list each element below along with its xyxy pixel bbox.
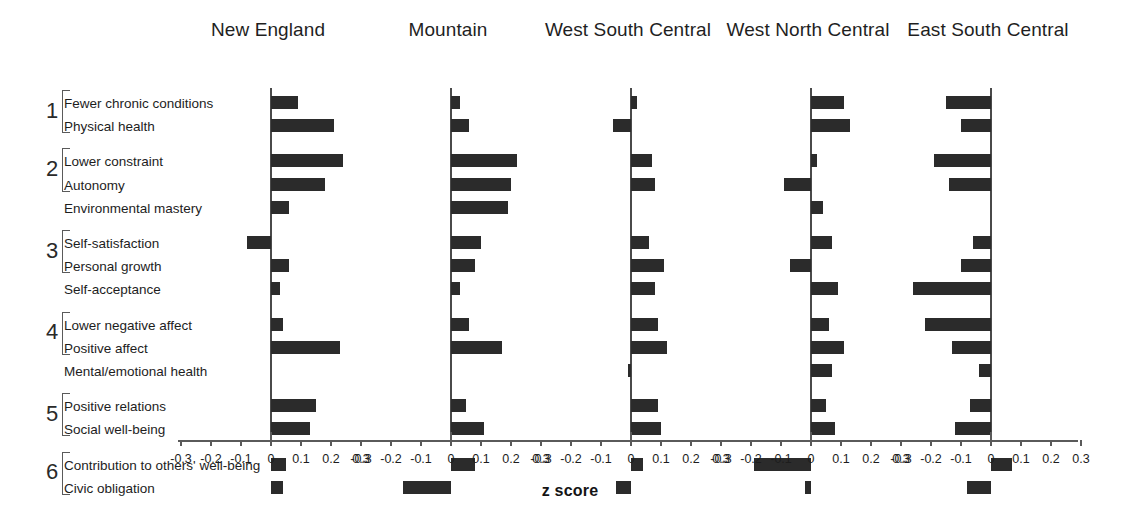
x-tick [870,440,871,446]
x-tick-label: -0.3 [350,452,372,466]
x-tick-label: 0 [268,452,275,466]
x-tick-label: -0.2 [380,452,402,466]
bar [631,399,658,412]
x-tick-label: 0.2 [862,452,879,466]
x-tick-label: -0.2 [740,452,762,466]
x-tick [720,440,721,446]
panel-west-north-central: West North Central-0.3-0.2-0.100.10.20.3 [718,0,898,529]
x-tick [330,440,331,446]
bar [271,422,310,435]
row-label: Positive affect [64,342,148,356]
bar [451,154,517,167]
bar [271,178,325,191]
row-label: Positive relations [64,400,166,414]
panel-new-england: New England-0.3-0.2-0.100.10.20.3 [178,0,358,529]
x-tick [480,440,481,446]
x-tick-label: -0.3 [710,452,732,466]
x-tick [990,432,991,446]
row-label: Social well-being [64,423,165,437]
row-label: Physical health [64,120,155,134]
group-number: 3 [46,240,58,262]
bar [271,341,340,354]
panel-title: West North Central [718,18,898,41]
x-tick [780,440,781,446]
x-tick-label: -0.2 [200,452,222,466]
bar [631,236,649,249]
x-tick-label: -0.3 [530,452,552,466]
panel-title: New England [178,18,358,41]
bar [631,341,667,354]
x-tick [240,440,241,446]
x-tick [1080,440,1081,446]
x-tick-label: -0.1 [590,452,612,466]
bar [973,236,991,249]
bar [451,259,475,272]
bar [631,318,658,331]
x-tick [540,440,541,446]
bar [271,119,334,132]
x-tick [690,440,691,446]
x-tick [420,440,421,446]
bar [631,96,637,109]
bar [955,422,991,435]
x-tick [660,440,661,446]
bar [946,96,991,109]
bar [811,96,844,109]
group-number: 6 [46,461,58,483]
bar [451,318,469,331]
panel-west-south-central: West South Central-0.3-0.2-0.100.10.20.3 [538,0,718,529]
x-tick-label: -0.2 [560,452,582,466]
bar [451,282,460,295]
row-label: Lower constraint [64,155,163,169]
bar [970,399,991,412]
x-tick [900,440,901,446]
x-tick-label: -0.1 [230,452,252,466]
bar [811,154,817,167]
x-tick-label: 0.2 [502,452,519,466]
x-tick [300,440,301,446]
x-tick-label: -0.3 [170,452,192,466]
x-tick-label: 0.1 [832,452,849,466]
bar [631,154,652,167]
x-tick-label: 0 [988,452,995,466]
bar [271,154,343,167]
x-tick [750,440,751,446]
row-label: Lower negative affect [64,319,192,333]
group-number: 5 [46,403,58,425]
bar [613,119,631,132]
bar [790,259,811,272]
x-tick [930,440,931,446]
group-number: 4 [46,321,58,343]
row-label: Self-acceptance [64,283,161,297]
bar [979,364,991,377]
row-label-column: 1Fewer chronic conditionsPhysical health… [0,88,180,440]
x-tick-label: 0.1 [292,452,309,466]
bar [631,178,655,191]
x-tick [270,432,271,446]
x-tick [390,440,391,446]
bar [451,119,469,132]
bar [451,96,460,109]
plot-area [538,88,718,440]
figure: 1Fewer chronic conditionsPhysical health… [0,0,1140,529]
row-label: Self-satisfaction [64,237,159,251]
bar [451,178,511,191]
bar [934,154,991,167]
bar [913,282,991,295]
x-tick-label: -0.1 [410,452,432,466]
x-tick-label: 0.3 [1072,452,1089,466]
panel-title: Mountain [358,18,538,41]
bar [271,318,283,331]
bar [811,282,838,295]
x-tick-label: 0 [628,452,635,466]
x-tick-label: 0 [808,452,815,466]
x-tick [510,440,511,446]
bar [811,364,832,377]
x-tick [960,440,961,446]
x-tick-label: -0.1 [770,452,792,466]
row-label: Personal growth [64,260,162,274]
bar [811,341,844,354]
group-number: 2 [46,158,58,180]
bar [925,318,991,331]
bar [451,341,502,354]
